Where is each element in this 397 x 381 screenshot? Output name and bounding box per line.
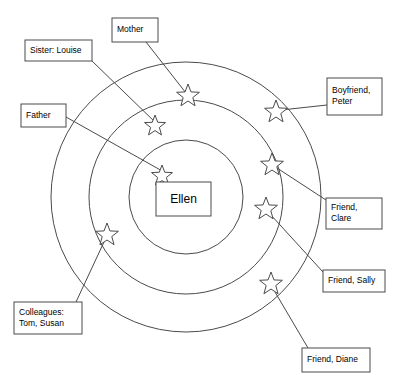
- label-mother-text-line-1: Mother: [117, 24, 144, 34]
- label-sister-louise: Sister: Louise: [25, 40, 92, 61]
- label-colleagues-text-line-2: Tom, Susan: [19, 318, 64, 328]
- label-colleagues-text-line-1: Colleagues:: [19, 307, 64, 317]
- label-mother: Mother: [112, 18, 158, 42]
- label-colleagues: Colleagues:Tom, Susan: [14, 302, 82, 334]
- star-diane: [260, 272, 283, 294]
- leader-line-mother: [146, 42, 186, 93]
- star-sister: [145, 115, 166, 135]
- center-person-group: Ellen: [156, 182, 211, 216]
- star-boyfriend: [265, 100, 288, 122]
- label-friend-diane: Friend, Diane: [302, 348, 370, 372]
- leader-line-sally: [270, 214, 323, 272]
- label-friend-sally-text-line-1: Friend, Sally: [328, 275, 376, 285]
- label-friend-clare: Friend,Clare: [326, 198, 382, 229]
- leader-line-colleagues: [76, 242, 104, 302]
- center-person-label: Ellen: [170, 192, 197, 206]
- leader-line-boyfriend: [281, 105, 327, 110]
- leader-line-diane: [275, 292, 308, 348]
- label-boyfriend-peter: Boyfriend,Peter: [327, 78, 382, 115]
- star-sally: [255, 197, 278, 219]
- label-boyfriend-peter-text-line-2: Peter: [332, 96, 352, 106]
- label-boyfriend-peter-text-line-1: Boyfriend,: [332, 85, 370, 95]
- label-friend-clare-text-line-2: Clare: [331, 213, 352, 223]
- label-father-text-line-1: Father: [26, 110, 51, 120]
- star-colleagues: [96, 223, 119, 245]
- star-mother: [177, 84, 200, 106]
- label-friend-diane-text-line-1: Friend, Diane: [307, 354, 358, 364]
- label-sister-louise-text-line-1: Sister: Louise: [30, 45, 82, 55]
- label-friend-sally: Friend, Sally: [323, 270, 385, 292]
- social-network-diagram-canvas: Ellen MotherSister: LouiseFatherBoyfrien…: [0, 0, 397, 381]
- label-father: Father: [21, 104, 66, 127]
- label-friend-clare-text-line-1: Friend,: [331, 202, 357, 212]
- social-network-diagram: Ellen MotherSister: LouiseFatherBoyfrien…: [0, 0, 397, 381]
